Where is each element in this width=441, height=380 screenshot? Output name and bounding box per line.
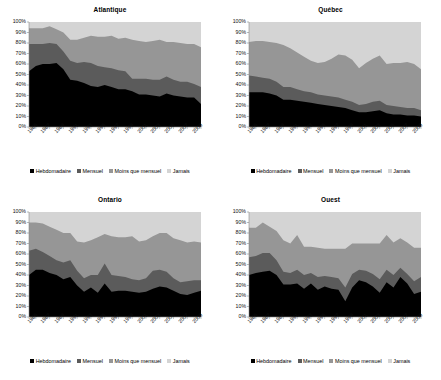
legend-label: Moins que mensuel xyxy=(114,358,161,364)
legend-swatch-icon xyxy=(251,169,255,173)
legend-swatch-icon xyxy=(109,359,113,363)
legend-item[interactable]: Mensuel xyxy=(298,358,324,364)
legend-label: Mensuel xyxy=(83,168,103,174)
legend-swatch-icon xyxy=(167,359,171,363)
y-axis-tick-label: 90% xyxy=(222,30,246,35)
chart-legend: HebdomadaireMensuelMoins que mensuelJama… xyxy=(220,168,441,174)
y-axis-tick-label: 60% xyxy=(2,61,26,66)
y-axis-tick-label: 20% xyxy=(2,293,26,298)
legend-swatch-icon xyxy=(329,359,333,363)
y-axis-tick-label: 60% xyxy=(222,251,246,256)
legend-label: Hebdomadaire xyxy=(36,168,71,174)
y-axis-tick-label: 20% xyxy=(2,103,26,108)
y-axis-tick-label: 40% xyxy=(222,82,246,87)
legend-item[interactable]: Jamais xyxy=(388,168,411,174)
legend-swatch-icon xyxy=(298,169,302,173)
legend-swatch-icon xyxy=(388,359,392,363)
y-axis-tick-label: 80% xyxy=(222,40,246,45)
y-axis-tick-label: 70% xyxy=(2,51,26,56)
y-axis-tick-label: 100% xyxy=(2,19,26,24)
chart-legend: HebdomadaireMensuelMoins que mensuelJama… xyxy=(0,358,220,364)
area-chart-svg xyxy=(220,190,441,380)
legend-swatch-icon xyxy=(329,169,333,173)
legend-label: Mensuel xyxy=(303,358,323,364)
y-axis-tick-label: 50% xyxy=(2,262,26,267)
y-axis-tick-label: 80% xyxy=(222,230,246,235)
y-axis-tick-label: 0% xyxy=(222,314,246,319)
y-axis-tick-label: 50% xyxy=(222,262,246,267)
legend-label: Jamais xyxy=(173,358,190,364)
legend-swatch-icon xyxy=(298,359,302,363)
y-axis-tick-label: 60% xyxy=(222,61,246,66)
y-axis-tick-label: 30% xyxy=(2,93,26,98)
y-axis-tick-label: 60% xyxy=(2,251,26,256)
y-axis-tick-label: 70% xyxy=(2,241,26,246)
y-axis-tick-label: 30% xyxy=(2,283,26,288)
y-axis-tick-label: 40% xyxy=(222,272,246,277)
legend-item[interactable]: Hebdomadaire xyxy=(251,168,292,174)
plot-area-ouest: 100%90%80%70%60%50%40%30%20%10%0%1985198… xyxy=(220,190,441,380)
plot-area-quebec: 100%90%80%70%60%50%40%30%20%10%0%1985198… xyxy=(220,0,441,190)
legend-item[interactable]: Moins que mensuel xyxy=(109,168,161,174)
legend-label: Moins que mensuel xyxy=(335,168,382,174)
legend-label: Moins que mensuel xyxy=(335,358,382,364)
legend-swatch-icon xyxy=(388,169,392,173)
legend-label: Jamais xyxy=(393,358,410,364)
legend-label: Moins que mensuel xyxy=(114,168,161,174)
chart-grid: Atlantique 100%90%80%70%60%50%40%30%20%1… xyxy=(0,0,441,380)
y-axis-tick-label: 90% xyxy=(2,220,26,225)
legend-item[interactable]: Mensuel xyxy=(77,168,103,174)
panel-atlantique: Atlantique 100%90%80%70%60%50%40%30%20%1… xyxy=(0,0,220,190)
y-axis-tick-label: 100% xyxy=(222,209,246,214)
y-axis-tick-label: 0% xyxy=(2,314,26,319)
legend-swatch-icon xyxy=(77,169,81,173)
y-axis-tick-label: 0% xyxy=(2,124,26,129)
legend-swatch-icon xyxy=(109,169,113,173)
legend-label: Hebdomadaire xyxy=(256,358,291,364)
y-axis-tick-label: 90% xyxy=(222,220,246,225)
y-axis-tick-label: 100% xyxy=(2,209,26,214)
y-axis-tick-label: 50% xyxy=(2,72,26,77)
area-chart-svg xyxy=(220,0,441,190)
legend-label: Mensuel xyxy=(303,168,323,174)
legend-label: Jamais xyxy=(393,168,410,174)
y-axis-tick-label: 100% xyxy=(222,19,246,24)
legend-item[interactable]: Moins que mensuel xyxy=(109,358,161,364)
panel-ouest: Ouest 100%90%80%70%60%50%40%30%20%10%0%1… xyxy=(220,190,441,380)
y-axis-tick-label: 0% xyxy=(222,124,246,129)
y-axis-tick-label: 10% xyxy=(2,114,26,119)
legend-swatch-icon xyxy=(30,359,34,363)
legend-label: Hebdomadaire xyxy=(256,168,291,174)
y-axis-tick-label: 10% xyxy=(222,304,246,309)
chart-legend: HebdomadaireMensuelMoins que mensuelJama… xyxy=(0,168,220,174)
y-axis-tick-label: 10% xyxy=(222,114,246,119)
panel-quebec: Québec 100%90%80%70%60%50%40%30%20%10%0%… xyxy=(220,0,441,190)
legend-swatch-icon xyxy=(167,169,171,173)
legend-item[interactable]: Moins que mensuel xyxy=(329,168,381,174)
y-axis-tick-label: 30% xyxy=(222,93,246,98)
y-axis-tick-label: 40% xyxy=(2,272,26,277)
y-axis-tick-label: 30% xyxy=(222,283,246,288)
legend-swatch-icon xyxy=(251,359,255,363)
y-axis-tick-label: 70% xyxy=(222,241,246,246)
legend-item[interactable]: Hebdomadaire xyxy=(30,358,71,364)
y-axis-tick-label: 70% xyxy=(222,51,246,56)
legend-item[interactable]: Jamais xyxy=(167,168,190,174)
y-axis-tick-label: 80% xyxy=(2,40,26,45)
plot-area-ontario: 100%90%80%70%60%50%40%30%20%10%0%1985198… xyxy=(0,190,220,380)
legend-item[interactable]: Hebdomadaire xyxy=(30,168,71,174)
y-axis-tick-label: 20% xyxy=(222,293,246,298)
legend-item[interactable]: Jamais xyxy=(388,358,411,364)
legend-item[interactable]: Moins que mensuel xyxy=(329,358,381,364)
y-axis-tick-label: 80% xyxy=(2,230,26,235)
legend-item[interactable]: Hebdomadaire xyxy=(251,358,292,364)
legend-item[interactable]: Mensuel xyxy=(77,358,103,364)
y-axis-tick-label: 50% xyxy=(222,72,246,77)
legend-item[interactable]: Mensuel xyxy=(298,168,324,174)
legend-item[interactable]: Jamais xyxy=(167,358,190,364)
y-axis-tick-label: 10% xyxy=(2,304,26,309)
legend-swatch-icon xyxy=(30,169,34,173)
legend-swatch-icon xyxy=(77,359,81,363)
panel-ontario: Ontario 100%90%80%70%60%50%40%30%20%10%0… xyxy=(0,190,220,380)
plot-area-atlantique: 100%90%80%70%60%50%40%30%20%10%0%1985198… xyxy=(0,0,220,190)
